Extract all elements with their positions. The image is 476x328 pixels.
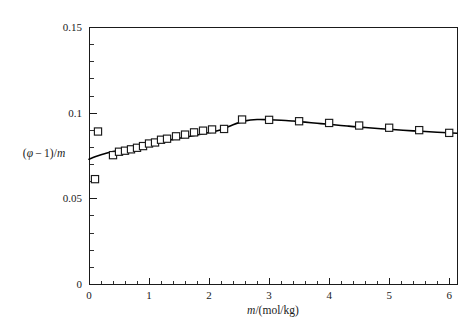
data-point-marker [91, 176, 98, 183]
y-tick-label: 0.1 [68, 107, 82, 119]
data-point-marker [238, 116, 245, 123]
data-point-marker [208, 126, 215, 133]
x-tick-label: 1 [146, 289, 152, 301]
data-point-marker [199, 127, 206, 134]
data-point-marker [94, 128, 101, 135]
y-axis-title: (φ − 1)/m [23, 147, 65, 160]
data-point-marker [446, 129, 453, 136]
x-tick-label: 2 [206, 289, 212, 301]
y-tick-label: 0 [77, 278, 83, 290]
x-tick-label: 5 [386, 289, 392, 301]
data-point-marker [326, 119, 333, 126]
x-tick-label: 3 [266, 289, 272, 301]
data-point-marker [296, 118, 303, 125]
figure-container: 0123456 00.050.10.15 m/(mol/kg) (φ − 1)/… [0, 0, 476, 328]
data-point-marker [172, 133, 179, 140]
chart-background [0, 0, 476, 328]
data-point-marker [181, 131, 188, 138]
x-tick-label: 4 [326, 289, 332, 301]
data-point-marker [266, 116, 273, 123]
data-point-marker [386, 124, 393, 131]
x-tick-label: 0 [86, 289, 92, 301]
y-tick-label: 0.05 [63, 192, 83, 204]
data-point-marker [416, 127, 423, 134]
data-point-marker [356, 122, 363, 129]
x-tick-label: 6 [446, 289, 452, 301]
x-axis-title: m/(mol/kg) [247, 304, 299, 317]
chart-plot: 0123456 00.050.10.15 m/(mol/kg) (φ − 1)/… [0, 0, 476, 328]
data-point-marker [190, 129, 197, 136]
y-tick-label: 0.15 [63, 21, 83, 33]
data-point-marker [163, 135, 170, 142]
data-point-marker [220, 125, 227, 132]
